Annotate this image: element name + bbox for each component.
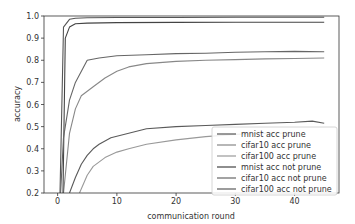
x-tick-label: 20 <box>171 197 181 206</box>
y-tick-label: 0.2 <box>26 189 39 198</box>
y-tick-label: 0.3 <box>26 167 39 176</box>
y-axis-ticks: 0.20.30.40.50.60.70.80.91.0 <box>26 12 44 198</box>
x-tick-label: 10 <box>112 197 122 206</box>
y-tick-label: 0.9 <box>26 34 39 43</box>
y-tick-label: 1.0 <box>26 12 39 21</box>
line-chart: 010203040 0.20.30.40.50.60.70.80.91.0 co… <box>0 0 355 224</box>
y-tick-label: 0.8 <box>26 56 39 65</box>
x-tick-label: 30 <box>230 197 240 206</box>
legend-label: cifar10 acc prune <box>241 141 311 150</box>
legend-label: mnist acc not prune <box>241 163 321 172</box>
y-tick-label: 0.5 <box>26 123 39 132</box>
y-tick-label: 0.6 <box>26 101 39 110</box>
legend-label: cifar100 acc prune <box>241 152 316 161</box>
y-tick-label: 0.7 <box>26 78 39 87</box>
x-tick-label: 0 <box>55 197 60 206</box>
legend-label: mnist acc prune <box>241 130 306 139</box>
y-tick-label: 0.4 <box>26 145 39 154</box>
x-axis-label: communication round <box>147 212 235 221</box>
legend-label: cifar10 acc not prune <box>241 174 327 183</box>
y-axis-label: accuracy <box>13 86 22 122</box>
legend: mnist acc prunecifar10 acc prunecifar100… <box>212 127 337 195</box>
x-tick-label: 40 <box>289 197 299 206</box>
legend-label: cifar100 acc not prune <box>241 185 332 194</box>
